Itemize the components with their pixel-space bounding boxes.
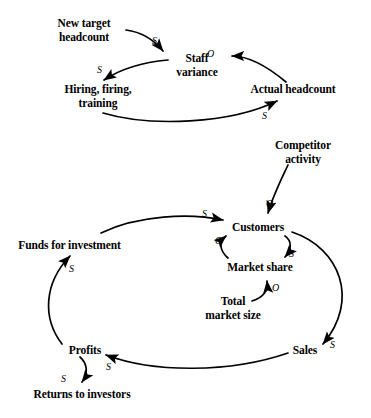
node-profits: Profits xyxy=(64,344,106,358)
node-funds-for-investment: Funds for investment xyxy=(12,239,127,253)
node-market-share: Market share xyxy=(222,261,298,275)
node-staff-variance: Staff variance xyxy=(166,52,228,79)
arrow-staff-variance-to-hiring xyxy=(104,60,168,80)
arrow-sales-to-profits xyxy=(106,353,288,368)
polarity-funds-to-customers: S xyxy=(202,209,207,219)
polarity-sales-to-profits: S xyxy=(106,362,111,372)
polarity-new-target-to-staff-variance: S xyxy=(152,36,157,46)
node-sales: Sales xyxy=(286,344,324,358)
node-customers: Customers xyxy=(226,221,290,235)
polarity-hiring-to-actual-headcount: S xyxy=(262,111,267,121)
polarity-total-market-size-to-market-share: O xyxy=(272,283,279,293)
node-competitor-activity: Competitor activity xyxy=(261,139,345,166)
arrow-customers-to-sales xyxy=(292,232,342,344)
node-total-market-size: Total market size xyxy=(191,295,275,322)
polarity-profits-to-funds: S xyxy=(69,264,74,274)
polarity-customers-to-sales: S xyxy=(330,340,335,350)
arrow-new-target-to-staff-variance xyxy=(126,30,163,51)
polarity-profits-to-returns: S xyxy=(61,374,66,384)
polarity-staff-variance-to-hiring: S xyxy=(97,65,102,75)
node-new-target-headcount: New target headcount xyxy=(43,17,125,44)
polarity-customers-to-market-share: S xyxy=(289,249,294,259)
causal-loop-diagram: New target headcount Staff variance Hiri… xyxy=(0,0,371,418)
polarity-actual-headcount-to-staff-variance: O xyxy=(207,49,214,59)
node-returns-to-investors: Returns to investors xyxy=(28,388,136,402)
polarity-market-share-to-customers: O xyxy=(215,236,222,246)
node-actual-headcount: Actual headcount xyxy=(245,83,341,97)
arrow-profits-to-funds xyxy=(49,256,70,344)
node-hiring-firing-training: Hiring, firing, training xyxy=(38,83,158,110)
arrow-actual-headcount-to-staff-variance xyxy=(232,56,286,82)
polarity-competitor-activity-to-customers: O xyxy=(266,199,273,209)
arrow-profits-to-returns xyxy=(80,357,86,382)
